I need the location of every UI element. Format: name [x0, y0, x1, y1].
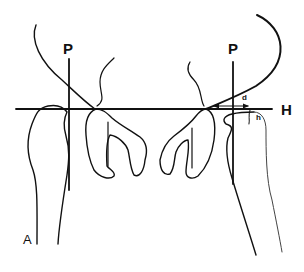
label-p-right: P: [228, 41, 238, 56]
right-femur-lateral: [254, 112, 282, 252]
label-p-left: P: [63, 41, 73, 56]
label-d: d: [242, 94, 247, 102]
height-marker-h: [249, 110, 250, 124]
left-femur: [28, 105, 69, 244]
panel-label: A: [23, 233, 32, 246]
diagram-drawing: [0, 0, 304, 272]
right-pelvic-wall: [188, 62, 204, 106]
left-ilium-curve: [34, 25, 95, 109]
label-h: H: [281, 102, 292, 117]
right-femur: [224, 112, 256, 255]
left-ischium: [86, 109, 147, 178]
arrowhead-right: [243, 104, 249, 109]
label-h-small: h: [256, 114, 261, 122]
hip-diagram: P P H d h A: [0, 0, 304, 272]
right-ischium: [160, 109, 215, 178]
left-pelvic-wall: [97, 58, 114, 106]
